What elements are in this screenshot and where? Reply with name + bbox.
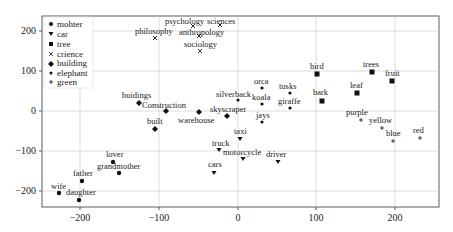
y-tick-label: 0 — [31, 105, 36, 116]
point-label: yellow — [369, 115, 393, 125]
square-marker — [355, 91, 360, 96]
star-icon — [50, 72, 53, 75]
legend-label: mohter — [57, 19, 83, 29]
square-marker — [390, 79, 395, 84]
point-label: psychology — [165, 16, 205, 26]
point-label: sociology — [184, 39, 218, 49]
square-marker — [320, 99, 325, 104]
point-label: tusks — [279, 81, 296, 91]
point-label: Construction — [142, 100, 187, 110]
circle-marker — [57, 191, 61, 195]
star-marker — [260, 120, 263, 123]
y-tick-label: −200 — [15, 185, 36, 196]
square-icon — [49, 42, 53, 46]
point-label: leaf — [350, 80, 363, 90]
x-tick-label: 100 — [309, 212, 324, 223]
point-label: skyscraper — [210, 104, 247, 114]
point-label: anthropology — [179, 27, 225, 37]
point-label: giraffe — [278, 96, 301, 106]
point-label: cars — [208, 159, 222, 169]
square-marker — [370, 70, 375, 75]
point-label: father — [73, 168, 93, 178]
y-tick-label: −100 — [15, 145, 36, 156]
point-label: trees — [363, 59, 379, 69]
point-label: taxi — [234, 126, 247, 136]
y-tick-label: 100 — [21, 65, 36, 76]
point-label: built — [147, 116, 163, 126]
legend-label: building — [57, 58, 88, 68]
point-label: driver — [266, 149, 286, 159]
point-label: red — [413, 125, 425, 135]
star-marker — [288, 91, 291, 94]
legend-label: car — [57, 29, 68, 39]
legend-label: green — [57, 77, 77, 87]
point-label: lover — [106, 149, 124, 159]
point-label: bark — [313, 87, 329, 97]
circle-marker — [117, 171, 121, 175]
point-label: sciences — [207, 16, 235, 26]
x-axis-ticks: −200 −100 0 100 200 — [70, 212, 403, 223]
x-tick-label: −200 — [70, 212, 91, 223]
point-label: koala — [252, 92, 271, 102]
point-label: blue — [386, 128, 401, 138]
legend-label: tree — [57, 39, 71, 49]
circle-icon — [49, 22, 53, 26]
point-label: jays — [255, 110, 270, 120]
legend: mohter car tree crience building elephan… — [44, 17, 93, 88]
x-tick-label: −100 — [149, 212, 170, 223]
x-tick-label: 200 — [388, 212, 403, 223]
point-label: grandmother — [97, 161, 141, 171]
point-label: philosophy — [135, 26, 174, 36]
star-marker — [260, 102, 263, 105]
point-label: warehouse — [178, 115, 215, 125]
x-tick-label: 0 — [236, 212, 241, 223]
point-label: bird — [310, 61, 324, 71]
circle-marker — [77, 198, 81, 202]
point-label: orca — [254, 76, 269, 86]
point-label: motorcycle — [223, 147, 261, 157]
point-label: purple — [346, 107, 368, 117]
y-tick-label: 200 — [21, 25, 36, 36]
scatter-chart: −200 −100 0 100 200 200 100 0 −100 −200 … — [0, 0, 453, 232]
y-axis-ticks: 200 100 0 −100 −200 — [15, 25, 36, 196]
circle-marker — [80, 179, 84, 183]
star-marker — [288, 106, 291, 109]
point-label: buidings — [122, 90, 151, 100]
point-label: daughter — [66, 187, 96, 197]
point-label: fruit — [385, 68, 400, 78]
square-marker — [315, 72, 320, 77]
point-label: wife — [51, 181, 66, 191]
star-marker — [260, 86, 263, 89]
point-label: silverback — [216, 89, 252, 99]
